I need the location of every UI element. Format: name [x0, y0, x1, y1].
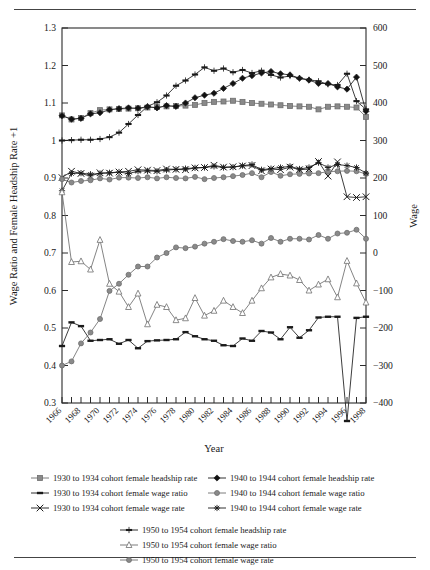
x-tick-label: 1988	[253, 405, 273, 425]
x-tick-label: 1984	[215, 405, 235, 425]
series-w3034	[59, 317, 369, 421]
legend-label: 1950 to 1954 cohort female headship rate	[142, 525, 286, 535]
legend-item-h5054[interactable]: 1950 to 1954 cohort female headship rate	[120, 525, 286, 535]
y2-tick-label: −200	[373, 322, 393, 333]
x-tick-label: 1976	[139, 405, 159, 425]
y2-tick-label: 200	[373, 172, 388, 183]
legend-label: 1930 to 1934 cohort female headship rate	[53, 473, 197, 483]
y-tick-label: 0.4	[44, 360, 56, 371]
y2-tick-label: −400	[373, 397, 393, 408]
y-tick-label: 1.3	[44, 22, 56, 33]
y2-tick-label: 100	[373, 210, 388, 221]
x-tick-label: 1982	[196, 405, 216, 425]
y-axis-title: Wage Ratio and Female Headship Rate +1	[8, 127, 19, 305]
x-tick-label: 1974	[120, 405, 140, 425]
y-tick-label: 0.6	[44, 285, 56, 296]
legend-item-w3034[interactable]: 1930 to 1934 cohort female wage ratio	[31, 488, 188, 498]
y-tick-label: 0.9	[44, 172, 56, 183]
legend-label: 1930 to 1934 cohort female wage rate	[53, 503, 185, 513]
legend-label: 1940 to 1944 cohort female wage ratio	[230, 488, 365, 498]
y-tick-label: 1.1	[44, 97, 56, 108]
legend-marker-r5054	[127, 558, 132, 563]
legend-label: 1930 to 1934 cohort female wage ratio	[53, 488, 188, 498]
chart-figure: 0.30.40.50.60.70.80.911.11.21.3 −400−300…	[0, 0, 430, 570]
legend-label: 1940 to 1944 cohort female wage rate	[230, 503, 362, 513]
y2-axis-title: Wage	[408, 204, 419, 228]
series-w5054	[59, 189, 369, 327]
y2-tick-label: 500	[373, 60, 388, 71]
y-tick-label: 0.5	[44, 322, 56, 333]
x-tick-label: 1972	[101, 405, 121, 425]
legend-label: 1950 to 1954 cohort female wage rate	[142, 555, 274, 565]
x-tick-label: 1968	[63, 405, 83, 425]
y-axis-ticks: 0.30.40.50.60.70.80.911.11.21.3	[44, 22, 68, 408]
y2-tick-label: 300	[373, 135, 388, 146]
legend-item-h3034[interactable]: 1930 to 1934 cohort female headship rate	[31, 473, 197, 483]
x-tick-label: 1992	[291, 405, 311, 425]
y-tick-label: 1	[51, 135, 56, 146]
series-h3034	[60, 98, 369, 122]
legend-item-h4044[interactable]: 1940 to 1944 cohort female headship rate	[208, 473, 374, 483]
legend-item-w4044[interactable]: 1940 to 1944 cohort female wage ratio	[208, 488, 365, 498]
legend-item-r3034[interactable]: 1930 to 1934 cohort female wage rate	[31, 503, 185, 513]
series-r5054	[60, 227, 369, 368]
x-tick-label: 1990	[272, 405, 292, 425]
legend-marker-w4044	[215, 491, 220, 496]
y2-tick-label: −100	[373, 285, 393, 296]
legend-marker-r4044	[214, 505, 220, 511]
legend-item-r4044[interactable]: 1940 to 1944 cohort female wage rate	[208, 503, 362, 513]
x-tick-label: 1978	[158, 405, 178, 425]
x-tick-label: 1970	[82, 405, 102, 425]
legend-item-w5054[interactable]: 1950 to 1954 cohort female wage ratio	[120, 540, 277, 550]
data-series-layer	[59, 64, 370, 421]
y2-tick-label: −300	[373, 360, 393, 371]
series-w4044	[60, 168, 369, 185]
x-tick-label: 1998	[348, 405, 368, 425]
x-tick-label: 1980	[177, 405, 197, 425]
chart-legend: 1930 to 1934 cohort female headship rate…	[31, 473, 374, 565]
x-axis-title: Year	[204, 443, 224, 454]
legend-marker-h4044	[214, 475, 220, 481]
legend-marker-h3034	[38, 476, 43, 481]
x-axis-ticks: 1966196819701972197419761978198019821984…	[44, 397, 368, 425]
x-tick-label: 1986	[234, 405, 254, 425]
legend-item-r5054[interactable]: 1950 to 1954 cohort female wage rate	[120, 555, 274, 565]
figure-page: 0.30.40.50.60.70.80.911.11.21.3 −400−300…	[0, 0, 430, 570]
y-tick-label: 0.7	[44, 247, 56, 258]
legend-label: 1940 to 1944 cohort female headship rate	[230, 473, 374, 483]
legend-marker-h5054	[126, 527, 132, 533]
y2-tick-label: 0	[373, 247, 378, 258]
series-h4044	[59, 68, 369, 122]
y-tick-label: 0.8	[44, 210, 56, 221]
y2-tick-label: 400	[373, 97, 388, 108]
legend-label: 1950 to 1954 cohort female wage ratio	[142, 540, 277, 550]
x-tick-label: 1994	[310, 405, 330, 425]
y-tick-label: 1.2	[44, 60, 56, 71]
y2-tick-label: 600	[373, 22, 388, 33]
y2-axis-ticks: −400−300−200−1000100200300400500600	[360, 22, 393, 408]
